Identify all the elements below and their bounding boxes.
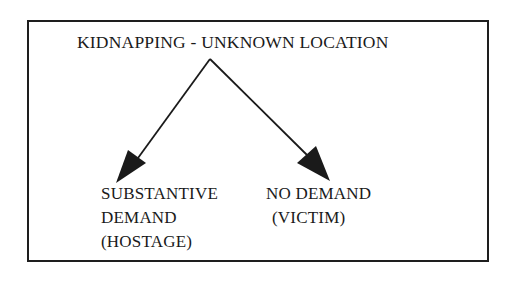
hostage-node-line: DEMAND	[101, 206, 177, 230]
victim-node-line: (VICTIM)	[272, 206, 345, 230]
victim-node-line: NO DEMAND	[266, 182, 371, 206]
hostage-node-line: SUBSTANTIVE	[101, 182, 218, 206]
arrow-to-victim-icon	[210, 59, 330, 181]
branch-arrows	[0, 0, 514, 282]
arrow-to-hostage-icon	[116, 59, 210, 183]
hostage-node-line: (HOSTAGE)	[101, 230, 192, 254]
